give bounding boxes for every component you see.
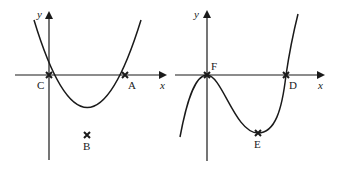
label-f: F — [211, 60, 217, 72]
left-graph: y x C A B — [15, 8, 165, 160]
label-e: E — [254, 138, 261, 150]
label-a: A — [128, 79, 136, 91]
label-c: C — [37, 79, 44, 91]
graphs-figure: y x C A B y x F D E — [0, 0, 339, 169]
left-x-axis-label: x — [159, 79, 165, 91]
point-marker-b — [84, 132, 90, 138]
right-x-axis-label: x — [317, 79, 323, 91]
label-d: D — [289, 79, 297, 91]
right-y-axis-label: y — [193, 8, 199, 20]
label-b: B — [83, 140, 90, 152]
left-parabola-curve — [34, 20, 141, 108]
left-y-axis-label: y — [36, 8, 42, 20]
right-graph: y x F D E — [175, 8, 323, 161]
